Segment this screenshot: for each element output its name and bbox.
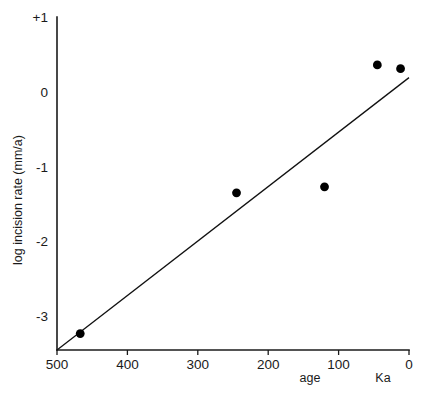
chart-figure: 5004003002001000 +10-1-2-3 log incision … [0, 0, 426, 394]
data-point [320, 182, 329, 191]
data-point [396, 64, 405, 73]
y-axis-tick-label: -3 [36, 309, 48, 324]
x-axis-tick-label: 100 [327, 357, 350, 372]
plot-background [0, 0, 426, 394]
x-axis-tick-label: 500 [46, 357, 69, 372]
x-axis-tick-label: 400 [116, 357, 139, 372]
x-axis-tick-label: 0 [405, 357, 413, 372]
y-axis-tick-label: -2 [36, 234, 48, 249]
data-point [232, 188, 241, 197]
x-axis-tick-label: 300 [187, 357, 210, 372]
x-axis-unit-label: Ka [375, 371, 390, 385]
y-axis-tick-label: 0 [40, 85, 48, 100]
data-point [373, 60, 382, 69]
scatter-plot: 5004003002001000 +10-1-2-3 log incision … [0, 0, 426, 394]
y-axis-title: log incision rate (mm/a) [11, 135, 25, 265]
x-axis-tick-label: 200 [257, 357, 280, 372]
x-axis-title: age [300, 371, 321, 385]
y-axis-tick-label: +1 [33, 10, 48, 25]
data-point [76, 329, 85, 338]
y-axis-tick-label: -1 [36, 160, 48, 175]
